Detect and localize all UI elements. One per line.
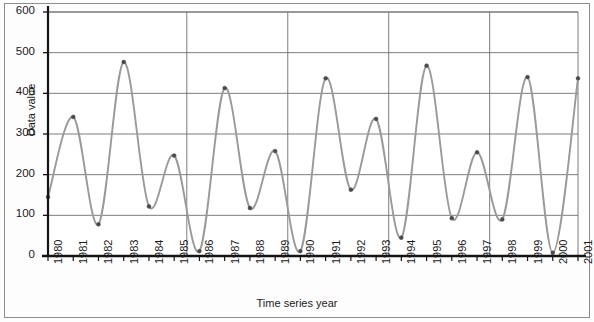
y-axis-title: Data value — [25, 55, 37, 165]
x-tick-label: 1991 — [330, 240, 342, 264]
x-tick-label: 1992 — [355, 240, 367, 264]
time-series-line-chart — [0, 0, 594, 322]
x-tick-label: 1993 — [380, 240, 392, 264]
y-tick-label: 0 — [1, 248, 35, 260]
data-point-marker — [349, 188, 353, 192]
data-point-marker — [324, 76, 328, 80]
y-tick-label: 400 — [1, 85, 35, 97]
y-tick-label: 600 — [1, 4, 35, 16]
x-tick-label: 1983 — [128, 240, 140, 264]
x-tick-label: 1994 — [405, 240, 417, 264]
x-tick-label: 1997 — [481, 240, 493, 264]
x-tick-label: 1990 — [304, 240, 316, 264]
y-tick-label: 200 — [1, 167, 35, 179]
data-point-marker — [273, 149, 277, 153]
x-axis-title: Time series year — [0, 297, 594, 309]
data-point-marker — [248, 206, 252, 210]
x-tick-label: 2000 — [557, 240, 569, 264]
x-tick-label: 1995 — [431, 240, 443, 264]
data-point-marker — [97, 222, 101, 226]
data-point-marker — [425, 64, 429, 68]
y-tick-label: 100 — [1, 207, 35, 219]
x-tick-label: 1987 — [229, 240, 241, 264]
data-point-marker — [298, 249, 302, 253]
data-point-marker — [399, 236, 403, 240]
y-tick-label: 300 — [1, 126, 35, 138]
data-point-marker — [223, 86, 227, 90]
data-point-marker — [475, 150, 479, 154]
x-tick-label: 1986 — [203, 240, 215, 264]
data-point-marker — [147, 204, 151, 208]
data-point-marker — [172, 154, 176, 158]
x-tick-label: 1989 — [279, 240, 291, 264]
data-point-marker — [551, 251, 555, 255]
data-point-marker — [122, 60, 126, 64]
x-tick-label: 1984 — [153, 240, 165, 264]
x-tick-label: 1996 — [456, 240, 468, 264]
data-point-marker — [71, 115, 75, 119]
x-tick-label: 2001 — [582, 240, 594, 264]
x-tick-label: 1981 — [77, 240, 89, 264]
data-point-marker — [526, 75, 530, 79]
y-tick-label: 500 — [1, 45, 35, 57]
data-point-marker — [500, 218, 504, 222]
chart-figure: Data value Time series year 010020030040… — [0, 0, 594, 322]
x-tick-label: 1999 — [532, 240, 544, 264]
x-tick-label: 1988 — [254, 240, 266, 264]
data-point-marker — [374, 117, 378, 121]
data-point-marker — [198, 249, 202, 253]
x-tick-label: 1980 — [52, 240, 64, 264]
data-point-marker — [576, 76, 580, 80]
x-tick-label: 1985 — [178, 240, 190, 264]
x-tick-label: 1998 — [506, 240, 518, 264]
x-tick-label: 1982 — [102, 240, 114, 264]
data-point-marker — [450, 216, 454, 220]
